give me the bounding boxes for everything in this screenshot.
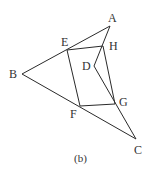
segment-fe (67, 50, 80, 106)
label-e: E (61, 35, 68, 49)
label-g: G (119, 95, 128, 109)
label-c: C (134, 143, 142, 157)
label-f: F (70, 107, 77, 121)
segment-gf (80, 104, 115, 106)
label-b: B (9, 67, 17, 81)
segment-ab (22, 26, 110, 74)
figure-caption: (b) (74, 152, 87, 165)
segment-hg (103, 46, 115, 104)
label-h: H (109, 39, 118, 53)
label-d: D (82, 59, 91, 73)
label-a: A (108, 11, 117, 25)
geometry-diagram: A B C D E F G H (b) (0, 0, 153, 172)
